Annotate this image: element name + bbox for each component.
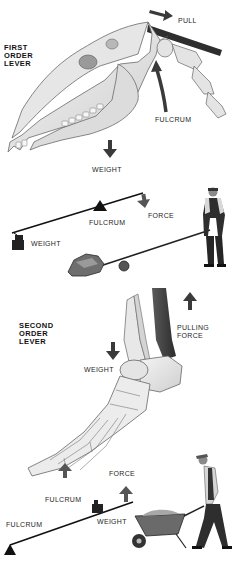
lever-weight-label: WEIGHT (97, 518, 127, 526)
second-order-lever-heading: SECOND ORDER LEVER (19, 322, 54, 346)
pull-arrow-icon (149, 10, 173, 21)
skull-fulcrum-label: FULCRUM (155, 116, 191, 124)
horse-skull-drawing (8, 22, 226, 152)
man-with-crowbar-figure (203, 188, 226, 268)
seesaw-fulcrum-label: FULCRUM (89, 219, 125, 227)
illustration-artwork (0, 0, 239, 564)
skull-weight-label: WEIGHT (92, 166, 122, 174)
man-with-wheelbarrow-figure (192, 454, 232, 549)
seesaw-force-label: FORCE (148, 212, 174, 220)
first-order-lever-heading: FIRST ORDER LEVER (4, 44, 33, 68)
pulling-force-line: FORCE (177, 332, 209, 340)
seesaw-weight-label: WEIGHT (31, 240, 61, 248)
foot-fulcrum-label: FULCRUM (45, 496, 81, 504)
weight-arrow-foot-icon (106, 342, 120, 360)
heading-line: LEVER (19, 338, 54, 346)
heading-line: LEVER (4, 60, 33, 68)
lever-illustration: FIRST ORDER LEVER PULL FULCRUM WEIGHT FU… (0, 0, 239, 564)
force-arrow-icon (137, 194, 150, 208)
pulling-force-arrow-icon (183, 292, 197, 310)
force-arrow-lever-icon (119, 486, 133, 502)
foot-skeleton-drawing (28, 288, 182, 476)
pulling-force-line: PULLING (177, 324, 209, 332)
lever-force-label: FORCE (109, 470, 135, 478)
foot-weight-label: WEIGHT (84, 366, 114, 374)
fulcrum-arrow-icon (151, 60, 166, 112)
lever-fulcrum-label: FULCRUM (6, 521, 42, 529)
pull-label: PULL (178, 17, 197, 25)
wheelbarrow-drawing (132, 506, 204, 548)
crowbar-and-rock-drawing (68, 230, 210, 276)
pulling-force-label: PULLING FORCE (177, 324, 209, 340)
weight-arrow-icon (103, 140, 117, 158)
